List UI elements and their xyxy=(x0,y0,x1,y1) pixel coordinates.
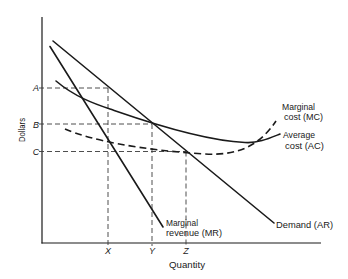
marginal-revenue-label-line1: Marginal xyxy=(166,218,198,228)
marginal-revenue-label: Marginal revenue (MR) xyxy=(166,218,222,238)
demand-label: Demand (AR) xyxy=(276,220,333,230)
average-cost-curve xyxy=(56,81,280,143)
average-cost-label: Average cost (AC) xyxy=(283,130,324,151)
average-cost-label-line1: Average xyxy=(283,130,315,140)
average-cost-label-line2: cost (AC) xyxy=(285,141,324,151)
marginal-revenue-label-line2: revenue (MR) xyxy=(166,228,222,238)
price-label-a: A xyxy=(32,83,39,93)
quantity-label-y: Y xyxy=(149,246,156,256)
quantity-label-z: Z xyxy=(182,246,189,256)
marginal-cost-label-line1: Marginal xyxy=(282,102,315,112)
quantity-label-x: X xyxy=(104,246,112,256)
marginal-cost-label: Marginal cost (MC) xyxy=(282,102,323,122)
y-axis-title: Dollars xyxy=(17,118,27,142)
diagram-canvas: A B C X Y Z Quantity Dollars Marginal co… xyxy=(0,0,348,279)
guide-lines xyxy=(39,88,186,246)
marginal-revenue-curve xyxy=(50,47,163,228)
monopoly-pricing-diagram: A B C X Y Z Quantity Dollars Marginal co… xyxy=(0,0,348,279)
x-axis-title: Quantity xyxy=(169,260,206,270)
demand-curve xyxy=(53,41,274,223)
price-label-c: C xyxy=(33,147,40,157)
price-label-b: B xyxy=(33,120,39,130)
marginal-cost-label-line2: cost (MC) xyxy=(284,112,323,122)
